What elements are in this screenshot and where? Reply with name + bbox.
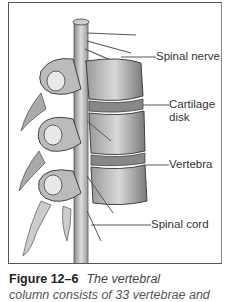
label-disk: disk xyxy=(169,111,189,123)
figure-caption: Figure 12–6The vertebral xyxy=(9,272,160,286)
label-vertebra: Vertebra xyxy=(169,158,212,170)
label-cartilage: Cartilage xyxy=(169,98,215,110)
figure-number: Figure 12–6 xyxy=(9,272,78,286)
caption-text-line2: column consists of 33 vertebrae and xyxy=(9,288,210,302)
label-spinal-nerve: Spinal nerve xyxy=(156,50,220,62)
caption-text: The vertebral xyxy=(86,272,160,286)
label-spinal-cord: Spinal cord xyxy=(151,218,209,230)
